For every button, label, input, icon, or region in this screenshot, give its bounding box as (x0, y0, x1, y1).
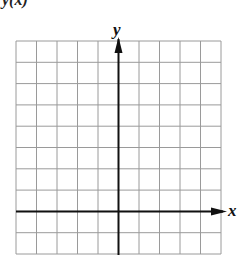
x-axis-arrow-icon (211, 207, 227, 215)
y-axis-label: y (113, 20, 121, 40)
x-axis-label: x (228, 201, 237, 221)
coordinate-grid (0, 0, 244, 269)
